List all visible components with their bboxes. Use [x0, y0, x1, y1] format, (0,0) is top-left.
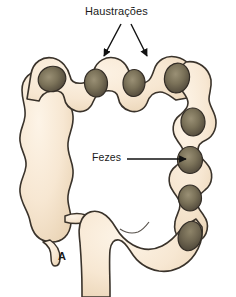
fecal-mass	[179, 185, 202, 211]
fezes-label: Fezes	[92, 152, 121, 163]
fecal-mass-labeled	[177, 146, 203, 174]
haustracoes-label: Haustrações	[85, 6, 148, 17]
haustracoes-arrow-right	[131, 24, 147, 56]
haustracoes-arrow-left	[104, 24, 121, 56]
colon-wall-group	[20, 57, 216, 297]
sigmoid-fold-highlight	[120, 222, 149, 233]
colon-anatomy-figure: Haustrações Fezes A	[0, 0, 236, 297]
panel-letter-label: A	[58, 251, 66, 262]
colon-illustration	[0, 0, 236, 297]
